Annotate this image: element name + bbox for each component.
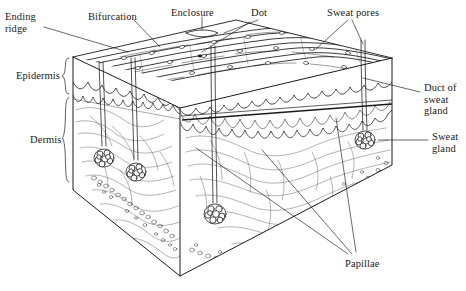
skin-cross-section-figure: Ending ridge Bifurcation Enclosure Dot S… <box>0 0 466 291</box>
label-enclosure: Enclosure <box>171 7 214 19</box>
layer-brackets <box>62 58 69 182</box>
label-sweat-gland: Sweat gland <box>432 131 458 154</box>
label-ending-ridge: Ending ridge <box>5 11 36 34</box>
label-bifurcation: Bifurcation <box>88 11 137 23</box>
label-dot: Dot <box>251 7 267 19</box>
label-epidermis: Epidermis <box>16 70 60 82</box>
sweat-gland-coil <box>126 163 146 181</box>
label-sweat-pores: Sweat pores <box>327 7 379 19</box>
epidermis-bracket <box>62 58 69 94</box>
minutia-dot <box>198 55 202 58</box>
label-papillae: Papillae <box>345 258 380 270</box>
diagram-canvas <box>0 0 466 291</box>
sweat-gland-coil <box>355 131 375 149</box>
label-duct-of-sweat-gland: Duct of sweat gland <box>424 82 456 117</box>
sweat-gland-coil <box>94 149 114 167</box>
label-dermis: Dermis <box>30 134 62 146</box>
dermis-bracket <box>62 98 69 182</box>
sweat-gland-coils <box>94 131 375 224</box>
sweat-gland-coil <box>204 204 226 224</box>
